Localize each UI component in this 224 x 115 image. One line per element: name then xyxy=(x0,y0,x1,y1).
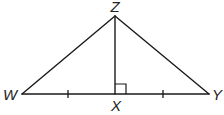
label-x: X xyxy=(110,97,122,114)
segment-wz xyxy=(22,16,115,94)
right-angle-marker xyxy=(115,84,126,94)
label-w: W xyxy=(3,86,19,103)
segment-zy xyxy=(115,16,209,94)
label-z: Z xyxy=(109,0,120,15)
label-y: Y xyxy=(212,86,223,103)
diagram-canvas: Z W X Y xyxy=(0,0,224,115)
triangle-diagram: Z W X Y xyxy=(0,0,224,115)
